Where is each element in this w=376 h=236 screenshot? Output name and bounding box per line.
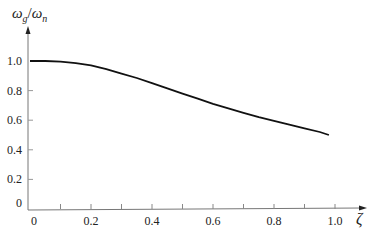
x-tick-label: 1.0 bbox=[328, 214, 343, 228]
axes bbox=[26, 26, 368, 211]
x-tick-label: 0.6 bbox=[206, 214, 221, 228]
series bbox=[30, 61, 329, 135]
tick-labels: 00.20.40.60.81.000.20.40.60.81.0 bbox=[7, 54, 343, 228]
x-tick-label: 0.2 bbox=[84, 214, 99, 228]
x-tick-label: 0.8 bbox=[267, 214, 282, 228]
y-tick-label: 1.0 bbox=[7, 54, 22, 68]
y-tick-label: 0.4 bbox=[7, 143, 22, 157]
axis-titles: ωg/ωn ζ bbox=[12, 5, 364, 228]
y-tick-label: 0.8 bbox=[7, 84, 22, 98]
x-axis-label: ζ bbox=[356, 210, 364, 228]
y-tick-label: 0.2 bbox=[7, 172, 22, 186]
y-axis-arrow-icon bbox=[26, 26, 31, 34]
series-line bbox=[30, 61, 329, 135]
y-tick-label: 0.6 bbox=[7, 113, 22, 127]
y-tick-label: 0 bbox=[16, 196, 22, 210]
x-tick-label: 0.4 bbox=[145, 214, 160, 228]
chart: 00.20.40.60.81.000.20.40.60.81.0 ωg/ωn ζ bbox=[0, 0, 376, 236]
x-tick-label: 0 bbox=[31, 214, 37, 228]
y-axis-label: ωg/ωn bbox=[12, 5, 47, 24]
x-axis bbox=[28, 208, 362, 210]
ticks bbox=[28, 91, 335, 209]
